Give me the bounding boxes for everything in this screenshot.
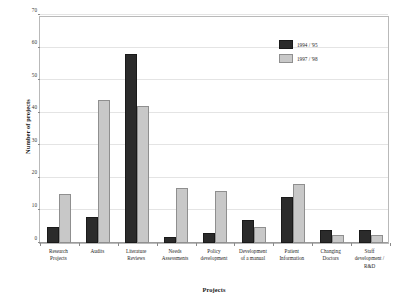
bar [137,106,149,243]
x-category-label: LiteratureReviews [117,248,156,263]
bar-group [351,17,390,243]
y-tick-label: 40 [32,104,37,110]
x-axis-title: Projects [39,286,389,293]
bar-group [40,17,79,243]
bar-group [118,17,157,243]
bar [86,217,98,243]
bar [371,235,383,243]
bar-group [157,17,196,243]
bar-group [234,17,273,243]
x-tick-mark [234,243,235,246]
bar-chart-figure: Number of projects 010203040506070 Resea… [0,0,406,306]
legend-label: 1997 / '98 [297,56,318,62]
legend-label: 1994 / '95 [297,42,318,48]
bar [125,54,137,243]
y-tick-label: 70 [32,7,37,13]
bar-group [312,17,351,243]
bar [176,188,188,243]
y-tick-label: 10 [32,202,37,208]
x-category-label: Audits [78,248,117,255]
bar-group [79,17,118,243]
x-tick-mark [312,243,313,246]
bar [281,197,293,243]
x-tick-mark [390,243,391,246]
x-axis-category-labels: ResearchProjectsAuditsLiteratureReviewsN… [39,248,389,282]
x-category-label: ResearchProjects [39,248,78,263]
y-tick-label: 30 [32,137,37,143]
gridline [40,14,388,15]
bar [59,194,71,243]
x-tick-mark [157,243,158,246]
bar [359,230,371,243]
y-tick-mark [38,14,41,15]
bar-group [196,17,235,243]
bar [320,230,332,243]
x-tick-mark [196,243,197,246]
x-category-label: Policydevelopment [195,248,234,263]
legend-swatch [279,54,293,63]
bar [254,227,266,243]
x-tick-mark [79,243,80,246]
y-tick-label: 50 [32,72,37,78]
x-category-label: NeedsAssessments [156,248,195,263]
bar [164,237,176,244]
bar [242,220,254,243]
x-tick-mark [273,243,274,246]
legend-item: 1997 / '98 [279,54,318,63]
bar [293,184,305,243]
plot-area: 010203040506070 [39,16,389,244]
x-tick-mark [40,243,41,246]
bar [215,191,227,243]
x-tick-mark [118,243,119,246]
chart-legend: 1994 / '951997 / '98 [279,40,318,63]
x-tick-mark [351,243,352,246]
legend-swatch [279,40,293,49]
bar [332,235,344,243]
bar [47,227,59,243]
y-tick-label: 20 [32,169,37,175]
bar [98,100,110,243]
bars-layer [40,17,388,243]
x-category-label: PatientInformation [272,248,311,263]
legend-item: 1994 / '95 [279,40,318,49]
x-category-label: Developmentof a manual [233,248,272,263]
x-category-label: ChangingDoctors [311,248,350,263]
y-axis-title: Number of projects [24,52,31,202]
x-category-label: Staffdevelopment /R&D [350,248,389,270]
y-tick-label: 60 [32,39,37,45]
bar [203,233,215,243]
y-tick-label: 0 [34,235,37,241]
